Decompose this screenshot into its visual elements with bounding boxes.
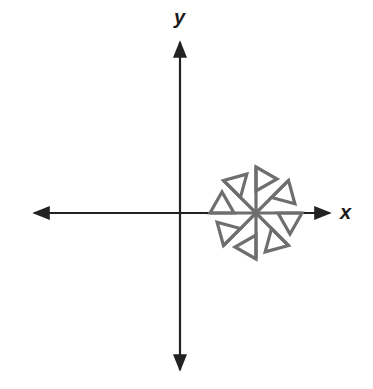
pinwheel-spoke [256, 213, 302, 234]
flag-triangle [210, 192, 234, 213]
pinwheel-spoke [210, 192, 256, 213]
flag-triangle [278, 213, 302, 234]
coordinate-plane [0, 0, 373, 389]
y-axis-label: y [174, 6, 185, 29]
pinwheel-spoke [235, 213, 256, 259]
pinwheel-figure [209, 166, 304, 261]
flag-triangle [223, 166, 255, 198]
flag-triangle [256, 167, 277, 191]
x-axis-label: x [340, 201, 351, 224]
flag-triangle [257, 229, 289, 261]
flag-triangle [209, 214, 241, 246]
flag-triangle [235, 235, 256, 259]
pinwheel-spoke [256, 167, 277, 213]
flag-triangle [272, 180, 304, 212]
